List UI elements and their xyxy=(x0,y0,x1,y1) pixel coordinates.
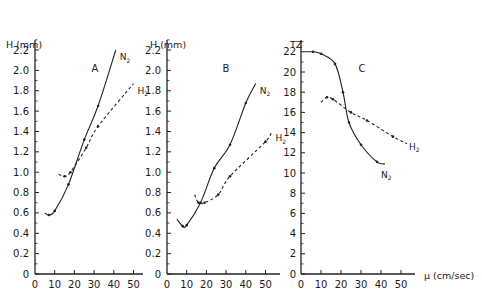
x-tick-label: 50 xyxy=(127,279,140,290)
x-tick-label: 50 xyxy=(259,279,272,290)
y-tick-label: 4 xyxy=(290,228,296,239)
data-point xyxy=(360,143,363,146)
h2-curve xyxy=(59,84,134,177)
y-tick-label: 2.0 xyxy=(145,65,161,76)
y-tick-label: 0.6 xyxy=(145,207,161,218)
x-tick-label: 30 xyxy=(220,279,233,290)
n2-curve xyxy=(45,50,116,215)
panel-letter: A xyxy=(92,63,99,74)
data-point xyxy=(312,51,315,54)
data-point xyxy=(392,135,395,138)
y-tick-label: 2.0 xyxy=(13,65,29,76)
h2-curve xyxy=(195,132,272,204)
y-tick-label: 0.8 xyxy=(145,187,161,198)
y-tick-label: 0.4 xyxy=(145,228,161,239)
data-point xyxy=(376,161,379,164)
data-point xyxy=(217,193,220,196)
x-tick-label: 30 xyxy=(88,279,101,290)
n2-label: N2 xyxy=(381,170,392,182)
y-tick-label: 8 xyxy=(290,188,296,199)
x-tick-label: 30 xyxy=(355,279,368,290)
x-tick-label: 40 xyxy=(107,279,120,290)
x-tick-label: 40 xyxy=(375,279,388,290)
x-tick-label: 50 xyxy=(395,279,408,290)
data-point xyxy=(264,140,267,143)
x-tick-label: 10 xyxy=(180,279,193,290)
y-tick-label: 0.4 xyxy=(13,228,29,239)
y-tick-label: 18 xyxy=(283,87,296,98)
y-axis-label: H (mm) xyxy=(6,39,42,50)
y-tick-label: 6 xyxy=(290,208,296,219)
n2-label: N2 xyxy=(260,86,271,98)
data-point xyxy=(245,102,248,105)
h2-label: H2 xyxy=(409,142,420,154)
y-tick-label: 1.6 xyxy=(13,106,29,117)
data-point xyxy=(97,105,100,108)
data-point xyxy=(320,53,323,56)
y-tick-label: 1.8 xyxy=(13,85,29,96)
y-tick-label: 1.0 xyxy=(13,167,29,178)
y-tick-label: 0 xyxy=(23,269,29,280)
y-axis-label: TZ xyxy=(289,39,303,50)
y-tick-label: 0.2 xyxy=(13,248,29,259)
x-tick-label: 0 xyxy=(32,279,38,290)
y-tick-label: 20 xyxy=(283,67,296,78)
data-point xyxy=(53,210,56,213)
data-point xyxy=(326,96,329,99)
data-point xyxy=(229,143,232,146)
data-point xyxy=(348,121,351,124)
y-tick-label: 0.8 xyxy=(13,187,29,198)
data-point xyxy=(366,119,369,122)
y-tick-label: 14 xyxy=(283,127,296,138)
y-tick-label: 0 xyxy=(155,269,161,280)
data-point xyxy=(229,175,232,178)
data-point xyxy=(213,167,216,170)
y-tick-label: 2 xyxy=(290,248,296,259)
data-point xyxy=(197,201,200,204)
x-tick-label: 20 xyxy=(68,279,81,290)
y-axis-label: H (mm) xyxy=(150,39,186,50)
y-tick-label: 1.4 xyxy=(13,126,29,137)
y-tick-label: 1.4 xyxy=(145,126,161,137)
panel-a: 00.20.40.60.81.01.21.41.61.82.02.2010203… xyxy=(6,39,148,290)
y-tick-label: 1.2 xyxy=(145,146,161,157)
data-point xyxy=(185,224,188,227)
data-point xyxy=(181,225,184,228)
y-tick-label: 10 xyxy=(283,168,296,179)
data-point xyxy=(342,91,345,94)
data-point xyxy=(334,63,337,66)
data-point xyxy=(97,125,100,128)
data-point xyxy=(350,111,353,114)
data-point xyxy=(83,138,86,141)
x-tick-label: 20 xyxy=(200,279,213,290)
data-point xyxy=(85,146,88,149)
y-tick-label: 1.8 xyxy=(145,85,161,96)
panel-b: 00.20.40.60.81.01.21.41.61.82.02.2010203… xyxy=(145,39,286,290)
y-tick-label: 1.2 xyxy=(13,146,29,157)
panel-c: 024681012141618202201020304050TZCN2H2 xyxy=(283,39,420,290)
data-point xyxy=(47,214,50,217)
data-point xyxy=(203,201,206,204)
x-tick-label: 40 xyxy=(239,279,252,290)
data-point xyxy=(67,183,70,186)
y-tick-label: 0.2 xyxy=(145,248,161,259)
x-tick-label: 10 xyxy=(48,279,61,290)
data-point xyxy=(63,175,66,178)
x-tick-label: 0 xyxy=(164,279,170,290)
x-tick-label: 0 xyxy=(298,279,304,290)
y-tick-label: 12 xyxy=(283,147,296,158)
y-tick-label: 16 xyxy=(283,107,296,118)
panel-letter: C xyxy=(359,63,366,74)
panel-letter: B xyxy=(223,63,230,74)
data-point xyxy=(69,171,72,174)
x-tick-label: 20 xyxy=(335,279,348,290)
x-tick-label: 10 xyxy=(315,279,328,290)
y-tick-label: 1.0 xyxy=(145,167,161,178)
n2-curve xyxy=(177,84,256,228)
y-tick-label: 0 xyxy=(290,269,296,280)
x-axis-label: μ (cm/sec) xyxy=(424,270,474,281)
y-tick-label: 0.6 xyxy=(13,207,29,218)
n2-label: N2 xyxy=(120,52,131,64)
figure: 00.20.40.60.81.01.21.41.61.82.02.2010203… xyxy=(0,0,482,299)
data-point xyxy=(332,98,335,101)
